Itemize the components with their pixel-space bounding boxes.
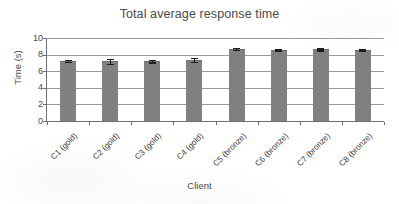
x-axis-tick-mark (216, 122, 217, 125)
x-axis-category-label: C2 (gold) (78, 131, 121, 174)
error-bar-cap-lower (317, 50, 324, 52)
gridline (47, 88, 384, 89)
x-axis-category-label: C3 (gold) (120, 131, 163, 174)
y-axis-tick-labels: 1086420 (16, 0, 43, 204)
y-axis-tick-label: 10 (21, 34, 43, 43)
bar[interactable] (313, 49, 329, 121)
y-axis-tick-label: 6 (21, 67, 43, 76)
bar[interactable] (186, 60, 202, 121)
y-axis-tick-label: 4 (21, 83, 43, 92)
chart-figure: Total average response time Time (s) 108… (0, 0, 399, 204)
x-axis-tick-mark (89, 122, 90, 125)
gridline (47, 71, 384, 72)
error-bar-cap-lower (107, 64, 114, 66)
y-axis-tick-mark (43, 88, 46, 89)
x-axis-category-label: C8 (bronze) (331, 131, 374, 174)
x-axis-tick-mark (384, 122, 385, 125)
error-bar-cap-lower (191, 62, 198, 64)
error-bar-cap-lower (275, 50, 282, 52)
error-bar-cap-lower (359, 50, 366, 52)
bar[interactable] (60, 61, 76, 121)
x-axis-category-label: C4 (gold) (162, 131, 205, 174)
x-axis-tick-mark (342, 122, 343, 125)
bar[interactable] (271, 50, 287, 121)
x-axis-category-label: C5 (bronze) (205, 131, 248, 174)
error-bar-cap-lower (149, 62, 156, 64)
x-axis-tick-mark (131, 122, 132, 125)
y-axis-tick-mark (43, 71, 46, 72)
bar[interactable] (229, 49, 245, 121)
y-axis-tick-label: 0 (21, 117, 43, 126)
y-axis-tick-mark (43, 38, 46, 39)
x-axis-category-label: C6 (bronze) (247, 131, 290, 174)
error-bar-cap-lower (233, 50, 240, 52)
gridline (47, 104, 384, 105)
error-bar-cap-upper (191, 58, 198, 60)
gridline (47, 38, 384, 39)
x-axis-tick-mark (300, 122, 301, 125)
x-axis-title: Client (0, 180, 399, 191)
bar[interactable] (102, 61, 118, 121)
error-bar-cap-upper (107, 59, 114, 61)
x-axis-tick-mark (173, 122, 174, 125)
gridline (47, 55, 384, 56)
y-axis-tick-label: 2 (21, 100, 43, 109)
y-axis-tick-mark (43, 55, 46, 56)
chart-title: Total average response time (0, 7, 399, 21)
x-axis-category-label: C7 (bronze) (289, 131, 332, 174)
bar[interactable] (355, 50, 371, 121)
x-axis-tick-mark (258, 122, 259, 125)
bar[interactable] (144, 61, 160, 121)
x-axis-tick-mark (47, 122, 48, 125)
y-axis-tick-label: 8 (21, 50, 43, 59)
error-bar-cap-upper (149, 60, 156, 62)
y-axis-tick-mark (43, 104, 46, 105)
plot-area (47, 38, 384, 121)
error-bar-cap-lower (65, 62, 72, 64)
y-axis-tick-mark (43, 121, 46, 122)
